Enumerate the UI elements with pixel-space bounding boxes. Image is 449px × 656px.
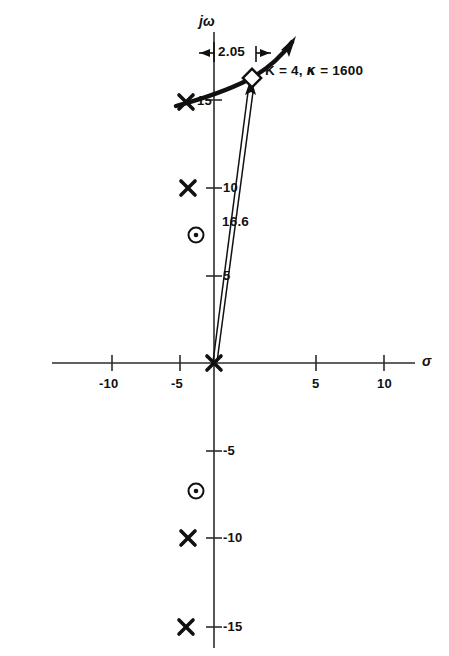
sigma-axis-label: σ	[422, 354, 432, 368]
dimension-2-05-label: 2.05	[218, 45, 245, 59]
dim-arrow-left	[200, 49, 210, 57]
sigma-tick-label--5: -5	[171, 377, 183, 390]
gain-annotation-value: = 1600	[320, 63, 363, 78]
jomega-tick-label-15: 15	[197, 94, 212, 107]
jomega-tick-label--5: -5	[223, 444, 235, 457]
jomega-axis-label: jω	[199, 14, 215, 28]
sigma-tick-label-10: 10	[377, 377, 392, 390]
jomega-tick-label--15: -15	[223, 620, 242, 633]
vector-magnitude-label: 16.6	[222, 215, 249, 229]
jomega-tick-label-5: 5	[223, 269, 230, 282]
plot-canvas	[0, 0, 449, 656]
zero-marker-lower	[189, 484, 204, 499]
sigma-tick-label--10: -10	[99, 377, 118, 390]
gain-annotation: K = 4, κ = 1600	[265, 64, 363, 78]
jomega-tick-label--10: -10	[223, 531, 242, 544]
axes-group	[52, 32, 415, 648]
dim-arrow-right	[260, 49, 270, 57]
gain-annotation-k: K = 4,	[265, 63, 303, 78]
pole-marker--10	[181, 531, 195, 545]
jomega-tick-label-10: 10	[223, 181, 238, 194]
sigma-tick-label-5: 5	[312, 377, 319, 390]
root-locus-figure: jω σ -10 -5 5 10 15 10 5 -5 -10 -15 2.05…	[0, 0, 449, 656]
pole-marker--15	[179, 620, 193, 634]
zero-marker-upper	[189, 228, 204, 243]
gain-annotation-kappa: κ	[307, 62, 317, 78]
pole-marker-10	[181, 181, 195, 195]
